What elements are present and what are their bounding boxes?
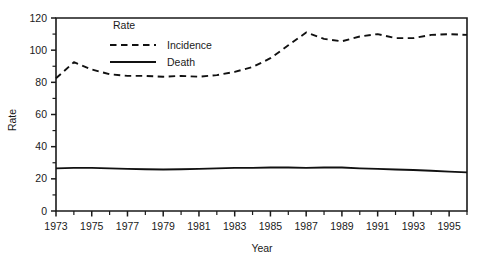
y-axis-title: Rate bbox=[6, 109, 18, 131]
y-tick-label: 40 bbox=[35, 140, 47, 152]
x-tick-label: 1973 bbox=[44, 220, 68, 232]
y-tick-label: 80 bbox=[35, 76, 47, 88]
x-tick-label: 1977 bbox=[116, 220, 140, 232]
legend-label-incidence: Incidence bbox=[167, 39, 212, 51]
x-tick-label: 1985 bbox=[259, 220, 283, 232]
x-tick-label: 1979 bbox=[152, 220, 176, 232]
x-tick-label: 1987 bbox=[294, 220, 318, 232]
chart-figure: 020406080100120 197319751977197919811983… bbox=[0, 0, 494, 265]
x-tick-label: 1983 bbox=[223, 220, 247, 232]
y-tick-label: 20 bbox=[35, 172, 47, 184]
legend-title: Rate bbox=[113, 19, 135, 31]
y-tick-label: 120 bbox=[29, 12, 47, 24]
y-tick-label: 60 bbox=[35, 108, 47, 120]
rate-line-chart: 020406080100120 197319751977197919811983… bbox=[0, 0, 494, 265]
x-axis-title: Year bbox=[251, 242, 273, 254]
x-tick-label: 1981 bbox=[187, 220, 211, 232]
y-tick-label: 100 bbox=[29, 44, 47, 56]
x-tick-label: 1993 bbox=[402, 220, 426, 232]
x-tick-label: 1995 bbox=[437, 220, 461, 232]
x-tick-label: 1975 bbox=[80, 220, 104, 232]
y-tick-label: 0 bbox=[41, 205, 47, 217]
x-tick-label: 1989 bbox=[330, 220, 354, 232]
x-tick-label: 1991 bbox=[366, 220, 390, 232]
legend-label-death: Death bbox=[167, 56, 195, 68]
